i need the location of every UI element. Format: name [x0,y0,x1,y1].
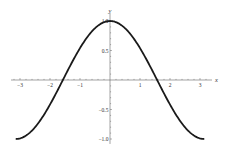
x-tick-label: −1 [77,82,83,88]
y-tick-label: −0.5 [99,107,109,113]
x-axis-label: x [214,76,218,83]
x-tick-label: −3 [17,82,23,88]
y-tick-label: −1.0 [99,136,109,142]
y-tick-label: 0.5 [102,48,109,54]
x-tick-label: 3 [199,82,202,88]
x-tick-label: 1 [139,82,142,88]
x-tick-label: −2 [47,82,53,88]
y-axis-label: y [108,7,112,14]
x-tick-label: 2 [169,82,172,88]
chart: −3−2−1123−1.0−0.50.51.0 x y [0,0,226,153]
